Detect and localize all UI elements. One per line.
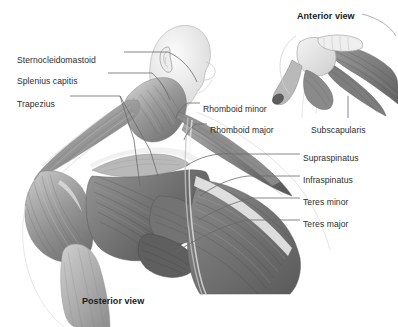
upper-arm-triceps [61, 244, 110, 327]
anatomy-figure: Sternocleidomastoid Splenius capitis Tra… [0, 0, 398, 327]
label-splenius-capitis: Splenius capitis [17, 76, 78, 86]
label-teres-major: Teres major [303, 219, 348, 229]
latissimus-dorsi [188, 176, 301, 294]
anterior-inset-group [271, 35, 398, 118]
label-supraspinatus: Supraspinatus [303, 153, 359, 163]
label-sternocleidomastoid: Sternocleidomastoid [17, 55, 96, 65]
label-trapezius: Trapezius [17, 99, 55, 109]
illustration-canvas [0, 0, 398, 327]
leader-anterior-view [362, 14, 396, 36]
label-teres-minor: Teres minor [303, 197, 348, 207]
label-rhomboid-minor: Rhomboid minor [203, 104, 267, 114]
label-infraspinatus: Infraspinatus [303, 175, 353, 185]
label-subscapularis: Subscapularis [311, 125, 366, 135]
caption-posterior-view: Posterior view [82, 296, 144, 306]
caption-anterior-view: Anterior view [297, 11, 355, 21]
label-rhomboid-major: Rhomboid major [210, 125, 274, 135]
